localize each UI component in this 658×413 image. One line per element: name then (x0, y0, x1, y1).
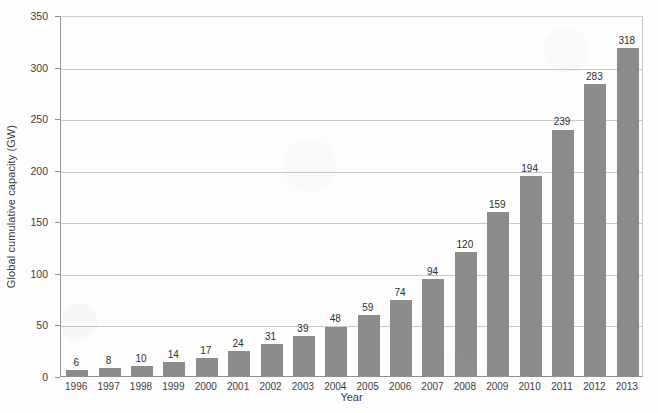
y-tick-label: 50 (0, 320, 48, 331)
y-tick-label: 300 (0, 62, 48, 73)
bar (163, 362, 185, 376)
bar-value-label: 283 (574, 72, 614, 82)
bar (617, 48, 639, 376)
y-tick-label: 200 (0, 165, 48, 176)
bar (261, 344, 283, 376)
bar (455, 252, 477, 376)
bar (228, 351, 250, 376)
y-tick-mark (55, 377, 60, 378)
y-tick-label: 150 (0, 217, 48, 228)
bar (293, 336, 315, 376)
bar (66, 370, 88, 376)
bar-value-label: 74 (380, 288, 420, 298)
y-tick-label: 0 (0, 372, 48, 383)
chart-figure: Global cumulative capacity (GW) 05010015… (0, 0, 658, 413)
bar (520, 176, 542, 376)
bar-value-label: 94 (412, 267, 452, 277)
gridline (61, 69, 642, 70)
bar-value-label: 194 (510, 164, 550, 174)
y-tick-label: 250 (0, 114, 48, 125)
y-tick-label: 100 (0, 269, 48, 280)
bar-value-label: 159 (477, 200, 517, 210)
bar (584, 84, 606, 376)
bar-value-label: 59 (348, 303, 388, 313)
y-tick-label: 350 (0, 11, 48, 22)
bar (422, 279, 444, 376)
bar (325, 327, 347, 377)
x-axis-title: Year (60, 391, 643, 403)
bar-value-label: 318 (607, 36, 647, 46)
bar-value-label: 48 (315, 314, 355, 324)
bar-value-label: 239 (542, 117, 582, 127)
bar-value-label: 120 (445, 240, 485, 250)
bar (487, 212, 509, 376)
bar (390, 300, 412, 376)
bar (358, 315, 380, 376)
bar (131, 366, 153, 376)
bar (196, 358, 218, 376)
bar-value-label: 39 (283, 324, 323, 334)
bar (552, 130, 574, 377)
bar (99, 368, 121, 376)
